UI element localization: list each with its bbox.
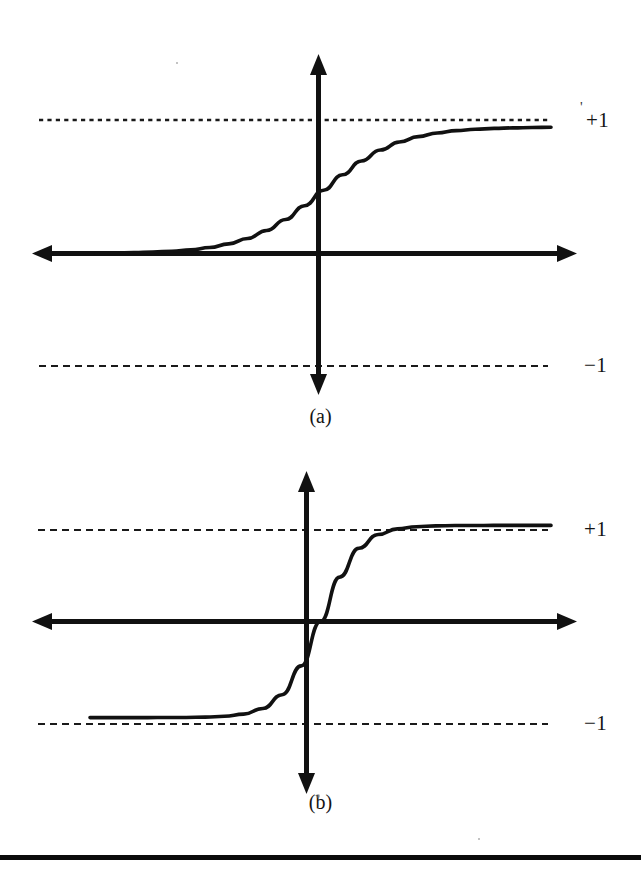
sigmoid-curve-a-final	[96, 127, 551, 253]
footer-rule	[0, 855, 641, 860]
x-axis-right-arrow-a	[557, 245, 577, 262]
lower-asymptote-label-a: −1	[584, 355, 607, 376]
scan-speck	[176, 62, 178, 64]
scan-speck	[478, 838, 480, 840]
y-axis-down-arrow-a	[310, 374, 327, 395]
y-axis-up-arrow-a	[310, 54, 327, 75]
upper-asymptote-label-a: +1	[586, 110, 609, 131]
x-axis-left-arrow-a	[32, 245, 52, 262]
panel-caption-a: (a)	[0, 406, 641, 426]
x-axis-left-arrow-b	[32, 613, 52, 630]
scan-speck	[316, 794, 320, 798]
x-axis-right-arrow-b	[557, 613, 577, 630]
chart-a-canvas	[0, 0, 641, 440]
panel-caption-b: (b)	[0, 792, 641, 812]
chart-panel-a: ' +1 −1 (a)	[0, 0, 641, 440]
lower-asymptote-label-b: −1	[584, 713, 607, 734]
upper-asymptote-label-b: +1	[584, 519, 607, 540]
chart-b-canvas	[0, 440, 641, 840]
figure-page: ' +1 −1 (a) +1 −1 (b)	[0, 0, 641, 874]
y-axis-up-arrow-b	[298, 471, 315, 492]
chart-panel-b: +1 −1 (b)	[0, 440, 641, 840]
stray-mark-a: '	[580, 100, 583, 115]
